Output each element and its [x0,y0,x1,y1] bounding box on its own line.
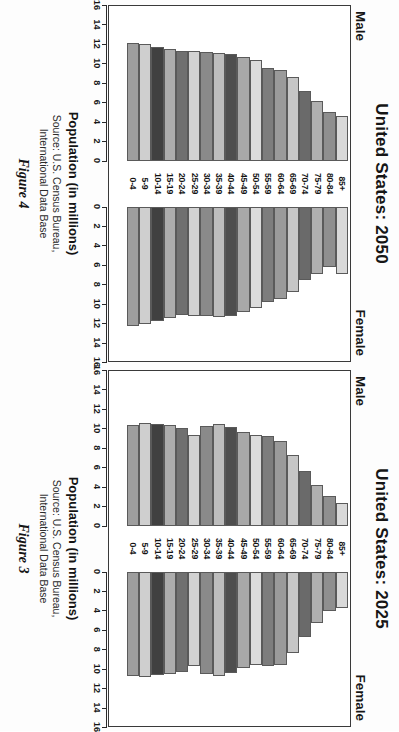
male-half [213,371,225,526]
bar-male-70-74 [299,471,311,525]
bar-male-15-19 [164,49,176,161]
bar-male-75-79 [311,485,323,526]
age-group-label: 30-34 [200,161,212,207]
age-group-label: 60-64 [274,161,286,207]
pyramid-row: 65-69 [287,6,299,361]
axis-tick [102,63,107,64]
female-half [287,572,299,727]
age-group-label: 65-69 [287,526,299,572]
female-half [274,572,286,727]
bar-female-65-69 [287,207,299,293]
axis-tick-label: 12 [92,404,102,414]
axis-tick [102,265,107,266]
axis-right: 0246810121416 [85,207,107,363]
age-group-label: 40-44 [225,526,237,572]
bar-male-60-64 [274,70,286,160]
chart-panel-us-2050: United States: 2050MaleFemale85+80-8475-… [0,1,399,366]
male-half [127,6,139,161]
age-group-label: 55-59 [262,161,274,207]
bar-female-65-69 [287,572,299,654]
female-half [225,572,237,727]
axis-tick-label: 4 [92,119,102,124]
male-half [200,371,212,526]
pyramid-row: 15-19 [164,371,176,726]
axis-tick-label: 12 [92,39,102,49]
female-half [139,572,151,727]
male-half [225,371,237,526]
male-half [287,6,299,161]
female-half [299,207,311,362]
bar-female-25-29 [188,207,200,317]
source-credit: Source: U.S. Census Bureau,International… [37,370,63,727]
pyramid-row: 40-44 [225,371,237,726]
bar-female-5-9 [139,207,151,325]
axis-tick [102,44,107,45]
female-half [250,572,262,727]
age-group-label: 65-69 [287,161,299,207]
bar-female-0-4 [127,207,139,327]
bar-male-40-44 [225,427,237,525]
bar-male-0-4 [127,43,139,161]
age-group-label: 0-4 [127,161,139,207]
female-half [164,207,176,362]
axis-tick [102,226,107,227]
female-half [176,207,188,362]
female-half [287,207,299,362]
axis-tick-label: 2 [92,588,102,593]
female-half [225,207,237,362]
female-half [151,572,163,727]
axis-tick [102,526,107,527]
bar-female-25-29 [188,572,200,666]
male-half [151,6,163,161]
bar-male-5-9 [139,44,151,161]
axis-tick-label: 8 [92,80,102,85]
male-half [311,371,323,526]
axis-tick [102,506,107,507]
axis-tick-label: 12 [92,683,102,693]
bar-male-65-69 [287,77,299,161]
pyramid-row: 55-59 [262,6,274,361]
source-line-1: Source: U.S. Census Bureau, [50,370,63,727]
source-line-2: International Data Base [37,5,50,362]
male-half [127,371,139,526]
x-axis: 02468101214160246810121416 [85,370,107,727]
axis-tick-label: 6 [92,262,102,267]
bar-male-85+ [336,116,348,161]
female-half [336,207,348,362]
pyramid-row: 60-64 [274,371,286,726]
bar-male-50-54 [250,60,262,160]
female-half [323,207,335,362]
age-group-label: 70-74 [299,161,311,207]
axis-tick [102,409,107,410]
age-group-label: 60-64 [274,526,286,572]
female-half [200,207,212,362]
bar-female-5-9 [139,572,151,678]
pyramid-row: 5-9 [139,371,151,726]
bar-male-35-39 [213,424,225,525]
bar-male-20-24 [176,51,188,161]
axis-tick-label: 8 [92,647,102,652]
axis-tick [102,389,107,390]
axis-title: Population (in millions) [66,370,81,727]
male-half [250,371,262,526]
axis-tick [102,448,107,449]
axis-left: 0246810121416 [85,370,107,526]
axis-tick-label: 6 [92,100,102,105]
pyramid-row: 50-54 [250,6,262,361]
male-half [250,6,262,161]
age-group-label: 75-79 [311,526,323,572]
legend-female: Female [353,674,368,721]
axis-tick [102,5,107,6]
axis-tick [102,362,107,363]
axis-tick [102,630,107,631]
bar-male-55-59 [262,436,274,525]
age-group-label: 10-14 [151,526,163,572]
bar-female-30-34 [200,207,212,317]
bar-female-50-54 [250,572,262,665]
age-group-label: 10-14 [151,161,163,207]
bar-male-5-9 [139,423,151,525]
axis-tick [102,708,107,709]
male-half [299,6,311,161]
male-half [176,371,188,526]
age-group-label: 35-39 [213,526,225,572]
